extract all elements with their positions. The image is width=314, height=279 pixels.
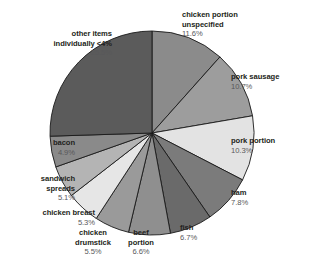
pie-label-sandwich-spreads: sandwich spreads 5.1% [13, 174, 75, 203]
pie-label-percent: 5.1% [13, 193, 75, 203]
pie-label-fish: fish 6.7% [180, 223, 197, 242]
pie-label-bacon: bacon 4.9% [13, 138, 75, 157]
pie-label-line2: unspecified [182, 20, 224, 29]
pie-label-line1: ham [231, 188, 246, 197]
pie-label-percent: 10.3% [231, 146, 275, 156]
pie-label-percent: 25.5% [8, 48, 112, 58]
pie-label-other-items: other items individually <4% 25.5% [8, 29, 112, 58]
pie-label-line1: other items [72, 29, 112, 38]
pie-label-line2: drumstick [75, 238, 111, 247]
pie-label-line1: sandwich [41, 174, 75, 183]
pie-label-line1: fish [180, 223, 193, 232]
pie-label-percent: 6.7% [180, 233, 197, 243]
pie-label-line2: portion [128, 238, 154, 247]
pie-label-percent: 5.5% [60, 247, 126, 257]
pie-label-line1: beef [133, 228, 148, 237]
pie-label-line1: chicken [79, 228, 107, 237]
pie-label-chicken-portion-unspecified: chicken portion unspecified 11.6% [182, 10, 238, 39]
pie-label-chicken-breast: chicken breast 5.3% [13, 208, 95, 227]
pie-label-pork-sausage: pork sausage 10.7% [231, 72, 279, 91]
pie-label-percent: 7.8% [231, 198, 248, 208]
pie-label-percent: 10.7% [231, 82, 279, 92]
pie-label-percent: 5.3% [13, 218, 95, 228]
pie-label-pork-portion: pork portion 10.3% [231, 136, 275, 155]
pie-label-line1: pork portion [231, 136, 275, 145]
pie-label-line1: chicken portion [182, 10, 238, 19]
pie-label-chicken-drumstick: chicken drumstick 5.5% [60, 228, 126, 257]
pie-chart: chicken portion unspecified 11.6% pork s… [0, 0, 314, 279]
pie-label-ham: ham 7.8% [231, 188, 248, 207]
pie-label-line2: spreads [46, 184, 75, 193]
pie-label-line1: chicken breast [43, 208, 95, 217]
pie-label-line1: pork sausage [231, 72, 279, 81]
pie-label-line2: individually <4% [54, 39, 113, 48]
pie-label-percent: 11.6% [182, 29, 238, 39]
pie-label-percent: 4.9% [13, 148, 75, 158]
pie-label-line1: bacon [53, 138, 75, 147]
